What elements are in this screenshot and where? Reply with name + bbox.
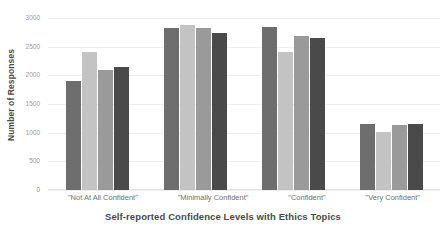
- gridline: [48, 190, 440, 191]
- bar: [66, 81, 81, 190]
- bar-group: [360, 18, 423, 190]
- bar: [262, 27, 277, 190]
- bar: [408, 124, 423, 190]
- y-axis-tick-label: 3000: [0, 14, 40, 21]
- y-axis-tick-label: 500: [0, 157, 40, 164]
- bar: [278, 52, 293, 190]
- bar-group: [262, 18, 325, 190]
- bar: [360, 124, 375, 190]
- bar: [196, 28, 211, 190]
- bar: [310, 38, 325, 190]
- y-axis-tick-label: 0: [0, 186, 40, 193]
- x-axis-category-label: "Very Confident": [366, 193, 421, 202]
- bar-group: [164, 18, 227, 190]
- bar-group: [66, 18, 129, 190]
- bar: [212, 33, 227, 190]
- y-axis-tick-label: 1000: [0, 129, 40, 136]
- x-axis-category-label: "Not At All Confident": [68, 193, 138, 202]
- bar: [392, 125, 407, 190]
- bar: [294, 36, 309, 190]
- bar: [180, 25, 195, 190]
- x-axis-category-label: "Minimally Confident": [178, 193, 249, 202]
- y-axis-tick-label: 2500: [0, 43, 40, 50]
- bar: [376, 132, 391, 190]
- bar: [82, 52, 97, 190]
- plot-area: [48, 18, 440, 190]
- x-axis-title: Self-reported Confidence Levels with Eth…: [0, 211, 446, 222]
- y-axis-tick-label: 1500: [0, 100, 40, 107]
- bar-chart: Number of Responses 05001000150020002500…: [0, 0, 446, 231]
- bar: [114, 67, 129, 190]
- bar: [164, 28, 179, 190]
- x-axis-category-label: "Confident": [288, 193, 325, 202]
- y-axis-tick-label: 2000: [0, 71, 40, 78]
- y-axis-ticks: 050010001500200025003000: [0, 18, 46, 190]
- x-axis-category-labels: "Not At All Confident""Minimally Confide…: [48, 193, 440, 202]
- bar: [98, 70, 113, 190]
- bar-groups: [48, 18, 440, 190]
